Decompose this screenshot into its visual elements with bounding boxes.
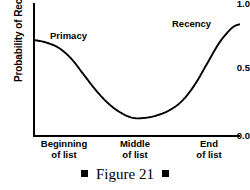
- figure-caption: Figure 21: [0, 165, 250, 183]
- figure-caption-text: Figure 21: [88, 166, 162, 183]
- x-tick-middle-line1: Middle: [104, 139, 166, 150]
- x-tick-beginning-line1: Beginning: [33, 139, 95, 150]
- annotation-primacy: Primacy: [50, 30, 87, 41]
- square-bullet-icon-right: [162, 170, 169, 177]
- x-tick-label-middle: Middle of list: [104, 139, 166, 160]
- x-tick-label-end: End of list: [178, 139, 240, 160]
- x-tick-end-line1: End: [178, 139, 240, 150]
- x-tick-end-line2: of list: [178, 150, 240, 161]
- annotation-recency: Recency: [172, 18, 211, 29]
- figure-container: Probability of Recall 1.0 0.5 0.0 Primac…: [0, 0, 250, 190]
- x-tick-label-beginning: Beginning of list: [33, 139, 95, 160]
- x-tick-beginning-line2: of list: [33, 150, 95, 161]
- x-tick-middle-line2: of list: [104, 150, 166, 161]
- y-axis-title: Probability of Recall: [13, 0, 27, 95]
- square-bullet-icon-left: [81, 170, 88, 177]
